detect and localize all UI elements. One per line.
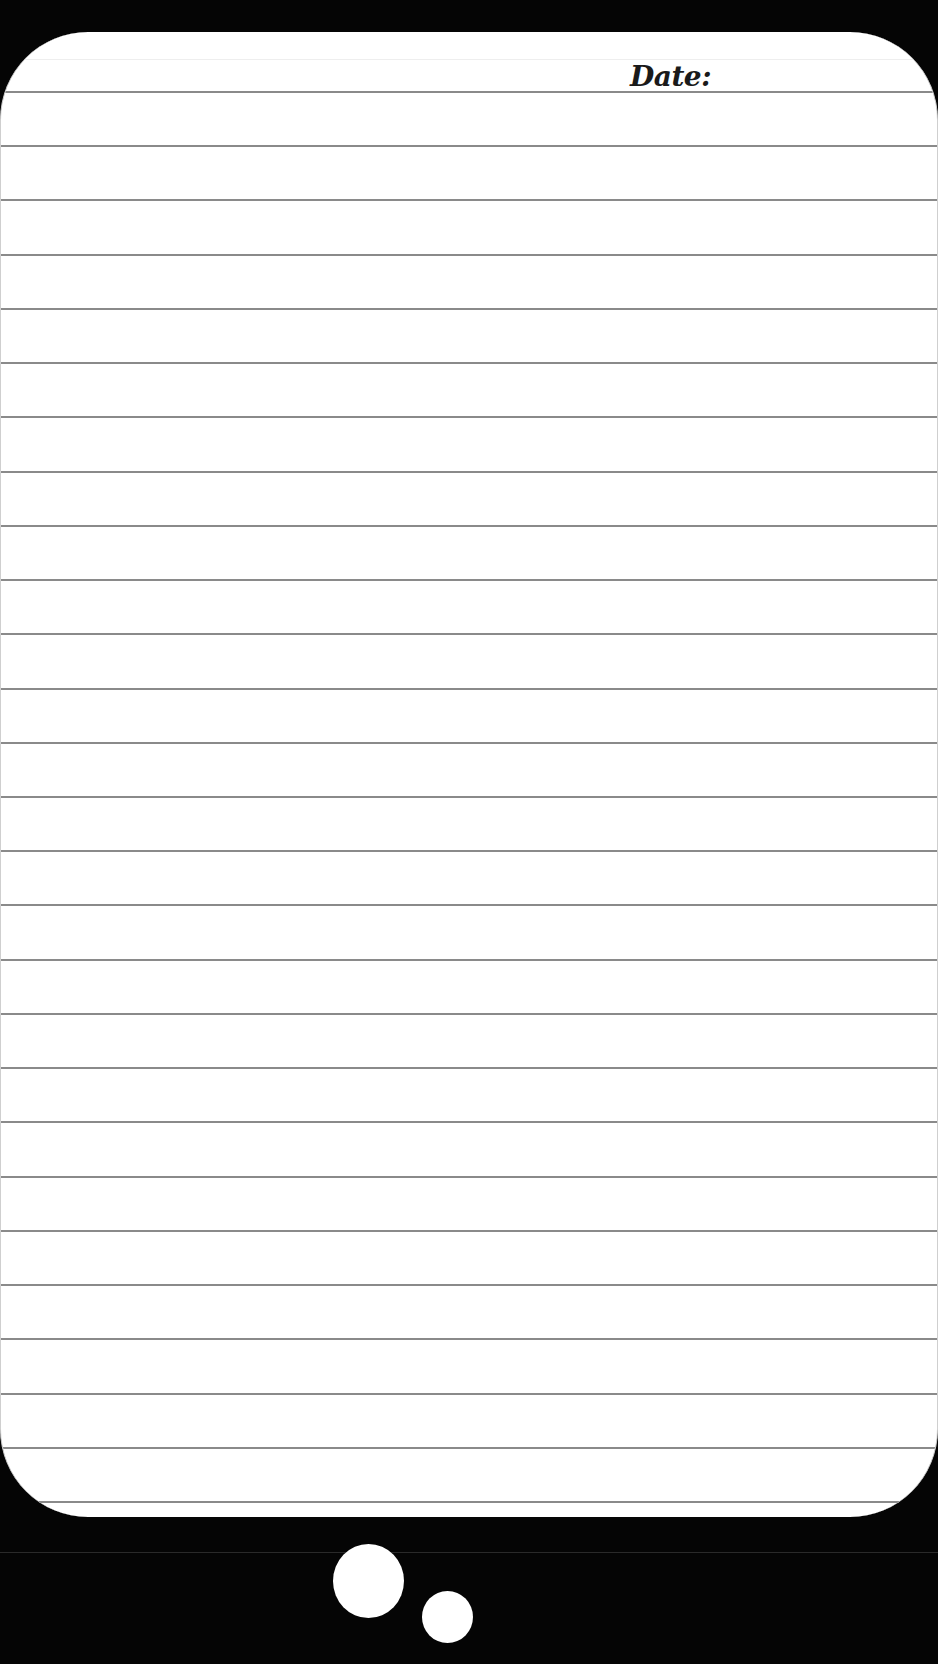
ruled-line — [1, 850, 937, 852]
lined-note-card: Date: — [0, 32, 938, 1517]
bottom-faint-line — [0, 1552, 938, 1553]
ruled-line — [1, 471, 937, 473]
ruled-line — [1, 199, 937, 201]
ruled-line — [1, 688, 937, 690]
ruled-line — [1, 1284, 937, 1286]
ruled-line — [1, 633, 937, 635]
ruled-line — [1, 1393, 937, 1395]
ruled-line — [1, 904, 937, 906]
ruled-line — [1, 1067, 937, 1069]
top-faint-guide-line — [1, 59, 937, 60]
ruled-line — [1, 1230, 937, 1232]
ruled-line — [1, 91, 937, 93]
thought-bubble-small — [422, 1591, 473, 1643]
date-label: Date: — [630, 60, 711, 94]
ruled-line — [1, 1338, 937, 1340]
ruled-line — [1, 1013, 937, 1015]
ruled-line — [1, 362, 937, 364]
ruled-line — [1, 416, 937, 418]
ruled-line — [1, 308, 937, 310]
ruled-line — [1, 145, 937, 147]
ruled-line — [1, 1447, 937, 1449]
ruled-line — [1, 254, 937, 256]
ruled-line — [1, 525, 937, 527]
ruled-line — [1, 959, 937, 961]
ruled-line — [1, 1121, 937, 1123]
thought-bubble-large — [333, 1544, 404, 1618]
ruled-line — [1, 1176, 937, 1178]
ruled-line — [1, 579, 937, 581]
ruled-line — [1, 742, 937, 744]
ruled-line — [1, 1501, 937, 1503]
ruled-line — [1, 796, 937, 798]
